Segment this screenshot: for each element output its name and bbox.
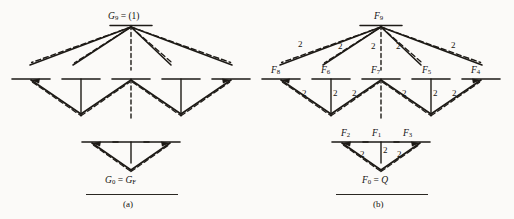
node-label-f7: F7 [371,66,380,76]
edge-weight-b-top-1: 2 [298,40,303,49]
edge-a-bot-2 [131,143,170,170]
caption-rule-a [86,194,178,195]
edge-a-mid-3 [131,80,181,114]
node-label-f9: F9 [374,12,383,22]
edge-weight-b-mid-6: 2 [452,89,457,98]
node-label-f4: F4 [471,66,480,76]
edge-a-bot-1-shadow [94,145,132,171]
edge-a-bot-1 [92,143,131,170]
edge-a-mid-2-shadow [81,82,130,116]
edge-a-mid-4-shadow [181,82,230,116]
node-label-g9: G9 = (1) [108,12,139,22]
edge-weight-b-top-3: 2 [371,42,376,51]
edge-a-bot-2-shadow [131,145,169,171]
edge-weight-b-top-2: 2 [338,42,343,51]
edge-b-top-4-shadow [381,27,422,63]
node-label-f6: F6 [321,66,330,76]
panel-a: G9 = (1) G0 = GF (a) [0,0,257,219]
panel-b: F9 2 2 2 2 2 F8 F6 F7 F5 F4 2 2 2 2 2 2 … [257,0,514,219]
edge-a-top-1-shadow [32,27,131,63]
edge-b-top-1-shadow [282,27,381,63]
edge-weight-b-mid-3: 2 [352,89,357,98]
edge-a-mid-3-shadow [133,82,182,116]
caption-a: (a) [123,200,133,209]
edge-a-top-5-shadow [131,27,231,63]
node-label-f0: F0 = Q [362,176,388,186]
node-label-g0: G0 = GF [105,176,136,186]
edge-a-mid-2 [81,80,131,114]
edge-a-mid-4 [181,80,231,114]
edge-weight-b-bot-2: 2 [383,146,388,155]
edge-weight-b-mid-1: 2 [302,89,307,98]
edge-weight-b-top-5: 2 [451,41,456,50]
edge-a-mid-1 [31,80,81,114]
edge-b-mid-1-shadow [283,82,332,116]
node-label-f1: F1 [372,129,381,139]
node-label-f2: F2 [341,129,350,139]
edge-weight-b-mid-5: 2 [433,89,438,98]
edge-b-mid-3-shadow [383,82,432,116]
figure-two-network-diagrams: G9 = (1) G0 = GF (a) [0,0,514,219]
node-label-f3: F3 [403,129,412,139]
node-label-f8: F8 [271,66,280,76]
edge-weight-b-mid-4: 2 [402,89,407,98]
node-label-f5: F5 [422,66,431,76]
caption-rule-b [336,194,428,195]
edge-weight-b-mid-2: 2 [333,89,338,98]
edge-weight-b-top-4: 2 [396,42,401,51]
edge-a-mid-1-shadow [33,82,82,116]
edge-a-top-4-shadow [131,27,172,63]
edge-weight-b-bot-3: 2 [397,150,402,159]
caption-b: (b) [373,200,384,209]
edge-weight-b-bot-1: 2 [360,150,365,159]
